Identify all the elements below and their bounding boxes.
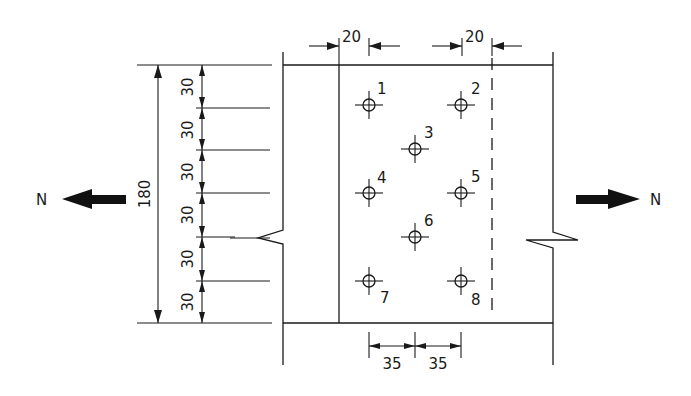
- dimension-row-spacings: 30 30 30 30 30 30: [179, 65, 205, 323]
- connection-diagram: 180 30 30 30 30 30 30 20: [0, 0, 691, 396]
- bolt-label-7: 7: [380, 289, 390, 307]
- dimension-180: 180: [136, 65, 162, 323]
- dimension-bottom-spacings: 35 35: [369, 332, 461, 373]
- row-extension-lines: [137, 65, 272, 323]
- bolt-7: 7: [355, 267, 390, 307]
- force-label-left: N: [36, 191, 47, 209]
- bolt-label-2: 2: [471, 80, 481, 98]
- bolt-label-4: 4: [377, 169, 387, 187]
- top-edge-left-dimension: 20: [342, 28, 361, 46]
- top-edge-right-dimension: 20: [465, 28, 484, 46]
- row-spacing-6: 30: [179, 292, 197, 311]
- bolt-label-8: 8: [471, 291, 481, 309]
- row-spacing-1: 30: [179, 77, 197, 96]
- bolt-1: 1: [355, 80, 387, 119]
- row-spacing-5: 30: [179, 249, 197, 268]
- bolt-label-1: 1: [377, 80, 387, 98]
- bolt-8: 8: [447, 267, 481, 309]
- row-spacing-3: 30: [179, 162, 197, 181]
- bottom-spacing-2: 35: [428, 355, 447, 373]
- bolt-label-6: 6: [424, 212, 434, 230]
- bolt-5: 5: [447, 168, 481, 207]
- plate-outline: [230, 52, 578, 365]
- bolt-label-3: 3: [424, 124, 434, 142]
- bolt-group: 1 2 3 4 5 6: [355, 80, 481, 309]
- force-arrow-left: N: [36, 189, 126, 209]
- dimension-total-height: 180: [136, 180, 154, 209]
- bolt-label-5: 5: [471, 168, 481, 186]
- force-label-right: N: [650, 191, 661, 209]
- row-spacing-2: 30: [179, 120, 197, 139]
- bolt-6: 6: [401, 212, 434, 251]
- dimension-top-edges: 20 20: [309, 28, 522, 65]
- force-arrow-right: N: [576, 189, 661, 209]
- bolt-4: 4: [355, 169, 387, 207]
- row-spacing-4: 30: [179, 205, 197, 224]
- bolt-3: 3: [401, 124, 434, 163]
- bottom-spacing-1: 35: [382, 355, 401, 373]
- bolt-2: 2: [447, 80, 481, 119]
